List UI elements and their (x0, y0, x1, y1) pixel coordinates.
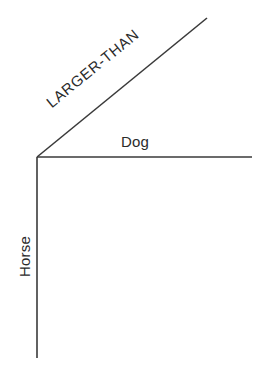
horse-edge-label: Horse (17, 236, 32, 277)
diagram-lines (0, 0, 258, 373)
diagram-canvas: LARGER-THAN Dog Horse (0, 0, 258, 373)
dog-edge-label: Dog (121, 134, 149, 149)
